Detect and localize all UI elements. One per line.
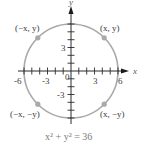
point-q4	[102, 102, 107, 107]
circle-diagram: y x -6 -3 0 3 6 3 -3 (−x, y) (x, y) (−x,…	[0, 0, 142, 146]
y-tick-label-neg3: -3	[57, 90, 65, 100]
point-label-q1: (x, y)	[100, 23, 120, 33]
y-axis-label: y	[68, 0, 73, 7]
point-q1	[102, 35, 107, 40]
x-tick-label-neg6: -6	[14, 76, 22, 86]
x-tick-label-3: 3	[93, 76, 98, 86]
y-axis-arrow-icon	[69, 6, 74, 14]
point-label-q4: (x, −y)	[100, 109, 125, 119]
origin-label: 0	[65, 72, 70, 82]
equation: x² + y² = 36	[45, 131, 92, 142]
point-label-q2: (−x, y)	[15, 23, 40, 33]
point-q2	[35, 35, 40, 40]
x-axis-arrow-icon	[121, 69, 129, 74]
x-axis-label: x	[132, 66, 137, 76]
point-label-q3: (−x, −y)	[10, 109, 40, 119]
x-tick-label-neg3: -3	[42, 76, 50, 86]
point-q3	[35, 102, 40, 107]
y-tick-label-3: 3	[61, 43, 66, 53]
x-tick-label-6: 6	[118, 76, 123, 86]
